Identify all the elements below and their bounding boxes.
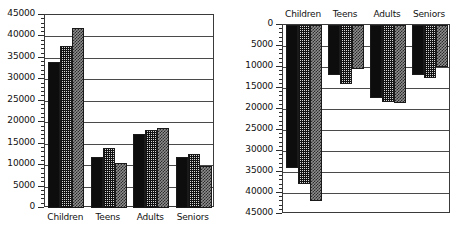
y-axis-tick-label: 15000	[245, 82, 273, 91]
bar-chart-inverted: 0500010000150002000025000300003500040000…	[230, 0, 460, 241]
category-label: Teens	[87, 213, 130, 222]
y-axis-tick-label: 0	[29, 202, 35, 211]
y-axis-minor-tick	[279, 205, 282, 206]
y-axis-minor-tick	[41, 87, 44, 88]
y-axis-minor-tick	[279, 179, 282, 180]
y-axis-tick-label: 40000	[245, 187, 273, 196]
bar	[103, 148, 115, 208]
y-axis-minor-tick	[41, 160, 44, 161]
category-label: Children	[44, 213, 87, 222]
bar	[436, 25, 448, 67]
bar	[328, 25, 340, 75]
y-axis-minor-tick	[41, 61, 44, 62]
y-axis-major-tick	[276, 45, 282, 46]
y-axis-tick-label: 15000	[7, 138, 35, 147]
y-axis-minor-tick	[279, 91, 282, 92]
y-axis-minor-tick	[41, 173, 44, 174]
y-axis-minor-tick	[279, 32, 282, 33]
plot-area	[44, 14, 214, 207]
bar	[91, 157, 103, 208]
y-axis-tick-label: 10000	[7, 159, 35, 168]
bar	[157, 128, 169, 208]
y-axis-minor-tick	[279, 104, 282, 105]
y-axis-tick-label: 35000	[7, 52, 35, 61]
y-axis-minor-tick	[41, 40, 44, 41]
y-axis-minor-tick	[41, 65, 44, 66]
y-axis-minor-tick	[279, 188, 282, 189]
bar	[200, 166, 212, 208]
y-axis-minor-tick	[41, 130, 44, 131]
y-axis-major-tick	[38, 164, 44, 165]
bar	[310, 25, 322, 201]
y-axis-minor-tick	[279, 158, 282, 159]
y-axis-minor-tick	[279, 121, 282, 122]
category-label: Seniors	[172, 213, 215, 222]
y-axis-minor-tick	[279, 83, 282, 84]
y-axis-major-tick	[276, 24, 282, 25]
y-axis-tick-label: 10000	[245, 61, 273, 70]
y-axis-minor-tick	[41, 126, 44, 127]
y-axis-minor-tick	[279, 100, 282, 101]
bar	[72, 28, 84, 208]
bar	[382, 25, 394, 102]
y-axis-minor-tick	[279, 62, 282, 63]
y-axis-minor-tick	[279, 200, 282, 201]
y-axis-tick-label: 25000	[245, 124, 273, 133]
y-axis-minor-tick	[41, 117, 44, 118]
y-axis-minor-tick	[41, 48, 44, 49]
y-axis-minor-tick	[279, 112, 282, 113]
y-axis-minor-tick	[279, 167, 282, 168]
y-axis-minor-tick	[279, 70, 282, 71]
y-axis-minor-tick	[279, 175, 282, 176]
y-axis-minor-tick	[279, 209, 282, 210]
y-axis-major-tick	[38, 100, 44, 101]
bar	[370, 25, 382, 98]
bar	[424, 25, 436, 78]
y-axis-minor-tick	[279, 146, 282, 147]
y-axis-minor-tick	[41, 18, 44, 19]
y-axis-major-tick	[38, 57, 44, 58]
y-axis-minor-tick	[41, 190, 44, 191]
y-axis-minor-tick	[41, 95, 44, 96]
y-axis-minor-tick	[279, 37, 282, 38]
y-axis-minor-tick	[279, 58, 282, 59]
y-axis-minor-tick	[41, 168, 44, 169]
bar	[188, 154, 200, 208]
y-axis-minor-tick	[279, 41, 282, 42]
y-axis-minor-tick	[41, 108, 44, 109]
y-axis-minor-tick	[41, 83, 44, 84]
bar	[60, 46, 72, 208]
y-axis-minor-tick	[41, 113, 44, 114]
bar	[286, 25, 298, 168]
y-axis-minor-tick	[41, 156, 44, 157]
y-axis-tick-label: 20000	[245, 103, 273, 112]
y-axis-major-tick	[38, 186, 44, 187]
y-axis-major-tick	[276, 66, 282, 67]
y-axis-minor-tick	[41, 203, 44, 204]
y-axis-tick-label: 45000	[245, 208, 273, 217]
y-axis-minor-tick	[41, 181, 44, 182]
y-axis-minor-tick	[279, 74, 282, 75]
y-axis-minor-tick	[41, 151, 44, 152]
bar	[48, 62, 60, 208]
category-label: Children	[282, 10, 324, 19]
y-axis-minor-tick	[279, 154, 282, 155]
y-axis-tick-label: 5000	[251, 40, 273, 49]
bar	[115, 163, 127, 208]
bar	[133, 134, 145, 208]
y-axis-tick-label: 30000	[7, 73, 35, 82]
y-axis-minor-tick	[279, 163, 282, 164]
y-axis-minor-tick	[41, 104, 44, 105]
y-axis-minor-tick	[41, 31, 44, 32]
y-axis-tick-label: 25000	[7, 95, 35, 104]
category-label: Adults	[129, 213, 172, 222]
y-axis-major-tick	[276, 129, 282, 130]
y-axis-minor-tick	[41, 23, 44, 24]
bar	[394, 25, 406, 103]
y-axis-major-tick	[276, 213, 282, 214]
y-axis-major-tick	[38, 207, 44, 208]
bar	[145, 130, 157, 208]
y-axis-minor-tick	[41, 198, 44, 199]
y-axis-minor-tick	[279, 95, 282, 96]
y-axis-minor-tick	[279, 133, 282, 134]
